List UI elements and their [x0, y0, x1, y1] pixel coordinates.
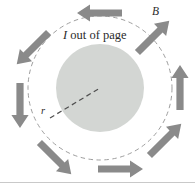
radius-label: r	[41, 106, 45, 117]
field-arrow-upper-right-up-left-pointing	[131, 15, 175, 59]
field-arrow-bottom-right-pointing	[98, 160, 143, 177]
field-arrow-left-down-pointing	[11, 83, 28, 128]
current-label-text: out of page	[67, 28, 126, 42]
field-arrow-right-up-pointing	[171, 65, 188, 110]
field-arrow-lower-left-down-right-pointing	[33, 136, 77, 180]
magnetic-field-diagram: I out of page B r	[0, 0, 195, 186]
magnetic-field-label: B	[152, 6, 159, 18]
field-arrow-top-left-pointing	[77, 4, 122, 21]
current-direction-label: I out of page	[63, 29, 127, 42]
